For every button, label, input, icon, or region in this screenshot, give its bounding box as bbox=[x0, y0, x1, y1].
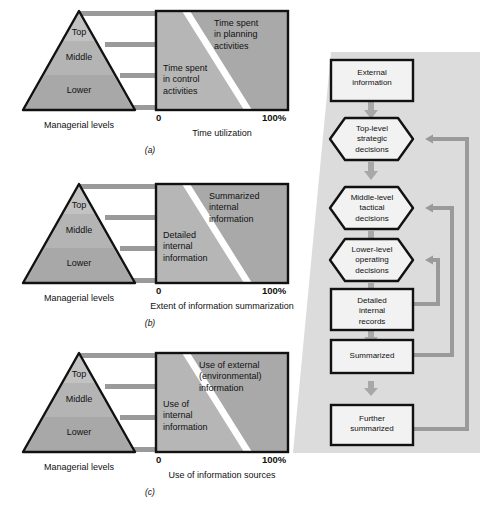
panel-a-chart-right-region: Time spent in planning activities bbox=[214, 18, 258, 52]
panel-c-level-top: Top bbox=[56, 369, 102, 380]
panel-c-chart-left-region: Use of internal information bbox=[163, 399, 208, 433]
panel-a-level-lower: Lower bbox=[36, 85, 122, 96]
panel-c-chart-caption: Use of information sources bbox=[152, 470, 292, 481]
panel-b-letter: (b) bbox=[130, 318, 170, 328]
panel-a-chart-left-region: Time spent in control activities bbox=[163, 63, 207, 97]
panel-a-axis-min: 0 bbox=[156, 112, 161, 123]
panel-c-axis-max: 100% bbox=[262, 454, 286, 465]
node-toplevel-label: Top-level strategic decisions bbox=[331, 124, 413, 155]
panel-c-chart-right-region: Use of external (environmental) informat… bbox=[199, 360, 262, 394]
panel-c-axis-min: 0 bbox=[156, 454, 161, 465]
panel-b-axis-max: 100% bbox=[262, 285, 286, 296]
panel-b-level-lower: Lower bbox=[36, 258, 122, 269]
panel-a-pyramid-caption: Managerial levels bbox=[12, 120, 146, 131]
panel-b-pyramid-caption: Managerial levels bbox=[12, 293, 146, 304]
node-middlelevel-label: Middle-level tactical decisions bbox=[329, 193, 415, 224]
panel-a-letter: (a) bbox=[130, 145, 170, 155]
figure-root: Top Middle Lower Managerial levels Time … bbox=[0, 0, 480, 509]
node-lowerlevel-label: Lower-level operating decisions bbox=[330, 245, 414, 276]
panel-b-chart-right-region: Summarized internal information bbox=[209, 191, 260, 225]
node-external-label: External information bbox=[331, 68, 413, 89]
node-detailed-label: Detailed internal records bbox=[331, 296, 413, 327]
panel-a-level-top: Top bbox=[56, 27, 102, 38]
panel-c-level-middle: Middle bbox=[45, 394, 113, 405]
panel-a-axis-max: 100% bbox=[262, 112, 286, 123]
panel-a-level-middle: Middle bbox=[45, 52, 113, 63]
panel-b-chart-left-region: Detailed internal information bbox=[163, 230, 208, 264]
node-summarized-label: Summarized bbox=[331, 351, 413, 361]
panel-b-chart-caption: Extent of information summarization bbox=[146, 301, 298, 312]
node-further-label: Further summarized bbox=[331, 414, 413, 435]
panel-c-letter: (c) bbox=[130, 487, 170, 497]
panel-b-axis-min: 0 bbox=[156, 285, 161, 296]
panel-c-level-lower: Lower bbox=[36, 427, 122, 438]
panel-c-pyramid-caption: Managerial levels bbox=[12, 462, 146, 473]
panel-b-level-top: Top bbox=[56, 200, 102, 211]
panel-b-level-middle: Middle bbox=[45, 225, 113, 236]
panel-a-chart-caption: Time utilization bbox=[152, 128, 292, 139]
